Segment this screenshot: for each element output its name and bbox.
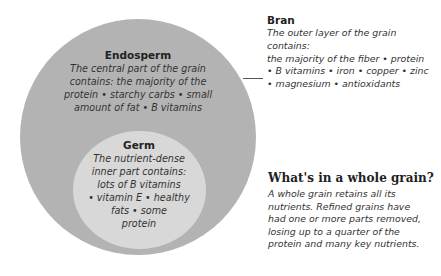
germ-line: • vitamin E • healthy bbox=[84, 191, 194, 204]
germ-label: Germ The nutrient-dense inner part conta… bbox=[84, 139, 194, 230]
info-line: nutrients. Refined grains have bbox=[268, 201, 441, 214]
germ-line: The nutrient-dense bbox=[84, 152, 194, 165]
bran-connector-line bbox=[243, 78, 263, 79]
bran-label: Bran The outer layer of the grain contai… bbox=[267, 14, 441, 91]
info-heading: What's in a whole grain? bbox=[268, 170, 441, 186]
info-line: had one or more parts removed, bbox=[268, 213, 441, 226]
bran-title: Bran bbox=[267, 14, 441, 27]
endosperm-line: amount of fat • B vitamins bbox=[50, 101, 226, 114]
germ-title: Germ bbox=[84, 139, 194, 152]
endosperm-label: Endosperm The central part of the grain … bbox=[50, 49, 226, 114]
bran-line: The outer layer of the grain contains: bbox=[267, 27, 441, 53]
whole-grain-info: What's in a whole grain? A whole grain r… bbox=[268, 170, 441, 251]
germ-line: lots of B vitamins bbox=[84, 178, 194, 191]
endosperm-line: The central part of the grain bbox=[50, 62, 226, 75]
info-line: losing up to a quarter of the bbox=[268, 226, 441, 239]
endosperm-title: Endosperm bbox=[50, 49, 226, 62]
bran-line: • magnesium • antioxidants bbox=[267, 78, 441, 91]
info-line: A whole grain retains all its bbox=[268, 188, 441, 201]
info-line: protein and many key nutrients. bbox=[268, 238, 441, 251]
endosperm-line: protein • starchy carbs • small bbox=[50, 88, 226, 101]
bran-line: • B vitamins • iron • copper • zinc bbox=[267, 65, 441, 78]
bran-line: the majority of the fiber • protein bbox=[267, 53, 441, 66]
germ-line: fats • some bbox=[84, 204, 194, 217]
germ-line: protein bbox=[84, 217, 194, 230]
germ-line: inner part contains: bbox=[84, 165, 194, 178]
endosperm-line: contains: the majority of the bbox=[50, 75, 226, 88]
